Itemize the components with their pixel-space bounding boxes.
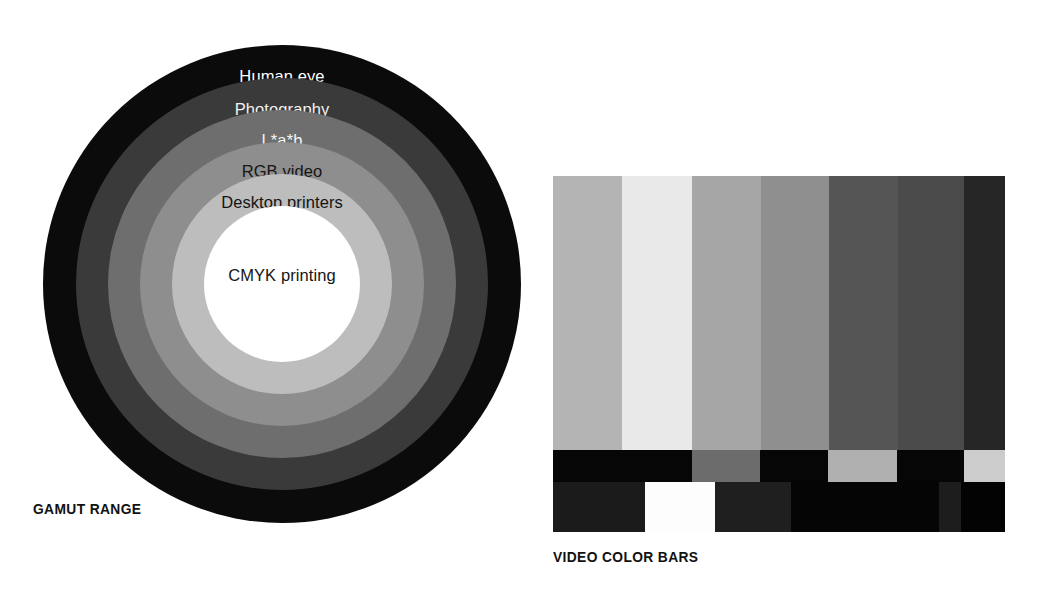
- bottom-bar-black-2: [961, 482, 1005, 532]
- bottom-bar-darkgray-1: [553, 482, 645, 532]
- bottom-bar-black-1: [791, 482, 939, 532]
- color-bars-bottom-row: [553, 482, 1005, 532]
- bottom-bar-white: [645, 482, 715, 532]
- color-bar-blue-gray: [964, 176, 1005, 450]
- mid-bar-black-3: [897, 450, 964, 482]
- gamut-range-caption: GAMUT RANGE: [33, 500, 141, 517]
- gamut-ring-cmyk-printing: CMYK printing: [204, 206, 360, 362]
- color-bar-magenta-gray: [829, 176, 898, 450]
- gamut-ring-label-cmyk-printing: CMYK printing: [204, 266, 360, 285]
- diagram-canvas: Human eye Photography L*a*b RGB video De…: [0, 0, 1059, 592]
- color-bars-main-row: [553, 176, 1005, 450]
- gamut-concentric-rings: Human eye Photography L*a*b RGB video De…: [43, 45, 521, 523]
- mid-bar-gray-3: [964, 450, 1005, 482]
- color-bar-red-gray: [898, 176, 964, 450]
- mid-bar-gray-2: [828, 450, 897, 482]
- bottom-bar-darkgray-3: [939, 482, 961, 532]
- color-bar-cyan-gray: [692, 176, 761, 450]
- color-bar-white: [622, 176, 692, 450]
- mid-bar-black-2: [760, 450, 828, 482]
- mid-bar-black-1: [553, 450, 692, 482]
- color-bars-middle-row: [553, 450, 1005, 482]
- video-color-bars-caption: VIDEO COLOR BARS: [553, 548, 698, 565]
- video-color-bars-figure: [553, 176, 1005, 532]
- gamut-range-figure: Human eye Photography L*a*b RGB video De…: [0, 0, 540, 592]
- mid-bar-gray-1: [692, 450, 760, 482]
- color-bar-green-gray: [761, 176, 829, 450]
- bottom-bar-darkgray-2: [715, 482, 791, 532]
- color-bar-gray-75: [553, 176, 622, 450]
